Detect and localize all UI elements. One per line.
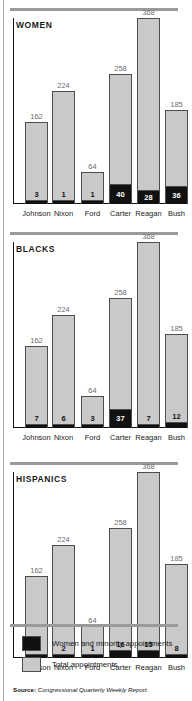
bar-total-value-label: 258 bbox=[103, 518, 138, 527]
bar-minority-value-label: 37 bbox=[109, 414, 132, 423]
legend-label: Total appointments bbox=[52, 660, 117, 669]
bar-minority-value-label: 36 bbox=[165, 191, 188, 200]
bar-slot: 18512 bbox=[165, 242, 188, 428]
bar-minority-value-label: 7 bbox=[25, 414, 48, 423]
bar-minority-value-label: 6 bbox=[52, 414, 75, 423]
chart-panel-blacks: BLACKS 1627224664325837368718512 Johnson… bbox=[10, 232, 182, 450]
bar-total-value-label: 368 bbox=[131, 462, 166, 471]
bar-total-value-label: 64 bbox=[75, 162, 110, 171]
bar-total-value-label: 185 bbox=[159, 554, 191, 563]
bar-minority-value-label: 7 bbox=[137, 414, 160, 423]
bar-slot: 36828 bbox=[137, 18, 160, 204]
bar-minority bbox=[25, 200, 48, 204]
bar-total-value-label: 368 bbox=[131, 232, 166, 241]
bar-minority bbox=[52, 200, 75, 204]
figure-left-rule bbox=[3, 0, 4, 701]
source-publication: Congressional Quarterly Weekly Report. bbox=[38, 686, 149, 693]
source-note: Source: Congressional Quarterly Weekly R… bbox=[13, 686, 148, 693]
category-label: Bush bbox=[157, 209, 192, 218]
bar-minority-value-label: 3 bbox=[25, 190, 48, 199]
bar-total-value-label: 162 bbox=[19, 336, 54, 345]
bar-total-value-label: 64 bbox=[75, 386, 110, 395]
bar-slot: 641 bbox=[81, 18, 104, 204]
bar-minority-value-label: 12 bbox=[165, 412, 188, 421]
chart-panel-women: WOMEN 16232241641258403682818536 Johnson… bbox=[10, 8, 182, 226]
bar-minority bbox=[52, 424, 75, 428]
bar-total-value-label: 368 bbox=[131, 8, 166, 17]
plot-area: 16232241641258403682818536 JohnsonNixonF… bbox=[13, 18, 178, 224]
appointments-figure: WOMEN 16232241641258403682818536 Johnson… bbox=[0, 0, 191, 701]
bar-total-value-label: 162 bbox=[19, 566, 54, 575]
bar-slot: 2246 bbox=[52, 242, 75, 428]
legend-label: Women and minority appointments bbox=[52, 639, 172, 648]
plot-area: 1627224664325837368718512 JohnsonNixonFo… bbox=[13, 242, 178, 448]
bar-minority bbox=[25, 424, 48, 428]
bar-minority-value-label: 1 bbox=[52, 190, 75, 199]
bar-minority-value-label: 3 bbox=[81, 414, 104, 423]
bar-slot: 2241 bbox=[52, 18, 75, 204]
bar-total-value-label: 162 bbox=[19, 112, 54, 121]
bar-total bbox=[52, 91, 75, 204]
legend-swatch-light-icon bbox=[22, 657, 41, 672]
bar-total-value-label: 185 bbox=[159, 100, 191, 109]
source-prefix: Source: bbox=[13, 686, 36, 693]
bar-slot: 3687 bbox=[137, 242, 160, 428]
bar-minority-value-label: 28 bbox=[137, 193, 160, 202]
bar-total-value-label: 258 bbox=[103, 288, 138, 297]
bar-total bbox=[137, 242, 160, 428]
bar-slot: 25837 bbox=[109, 242, 132, 428]
bar-total-value-label: 224 bbox=[46, 305, 81, 314]
bar-slot: 1623 bbox=[25, 18, 48, 204]
bar-slot: 1627 bbox=[25, 242, 48, 428]
bar-total-value-label: 258 bbox=[103, 64, 138, 73]
bar-minority-value-label: 40 bbox=[109, 190, 132, 199]
bar-slot: 25840 bbox=[109, 18, 132, 204]
bar-minority bbox=[165, 422, 188, 428]
bar-total-value-label: 185 bbox=[159, 324, 191, 333]
bar-total bbox=[52, 315, 75, 428]
legend-swatch-dark-icon bbox=[22, 636, 41, 651]
bar-total-value-label: 224 bbox=[46, 81, 81, 90]
legend-divider-rule bbox=[10, 624, 178, 627]
bar-total-value-label: 224 bbox=[46, 535, 81, 544]
category-label: Bush bbox=[157, 433, 192, 442]
bar-group: 16232241641258403682818536 bbox=[13, 18, 178, 204]
bar-minority bbox=[137, 424, 160, 428]
bar-minority bbox=[81, 424, 104, 428]
bar-total bbox=[137, 18, 160, 204]
bar-slot: 643 bbox=[81, 242, 104, 428]
bar-group: 1627224664325837368718512 bbox=[13, 242, 178, 428]
bar-slot: 18536 bbox=[165, 18, 188, 204]
legend: Women and minority appointments Total ap… bbox=[10, 624, 182, 674]
bar-minority-value-label: 1 bbox=[81, 190, 104, 199]
bar-minority bbox=[81, 200, 104, 204]
